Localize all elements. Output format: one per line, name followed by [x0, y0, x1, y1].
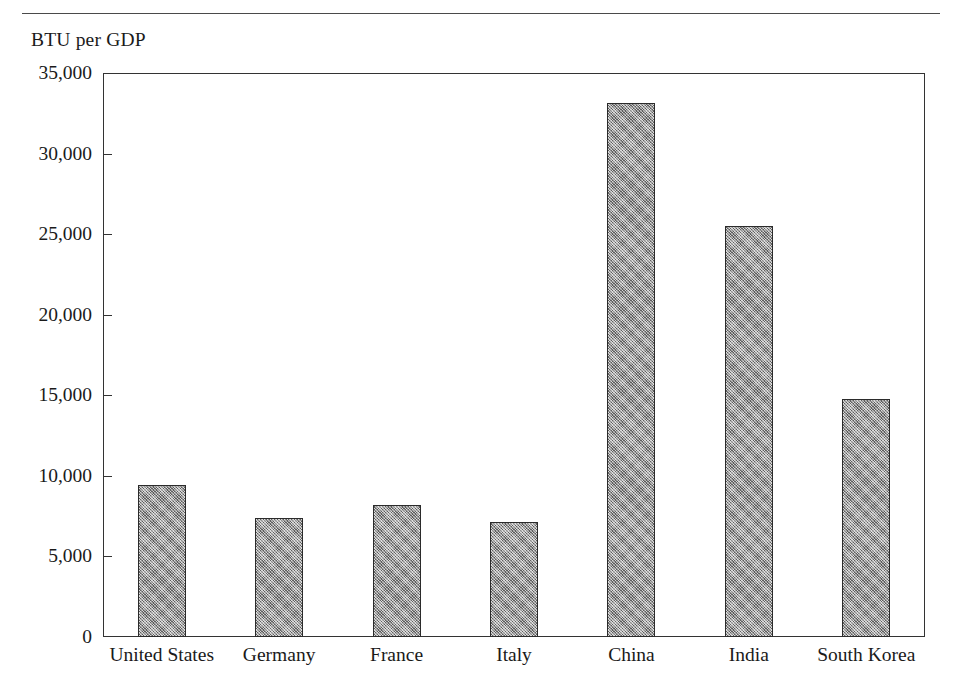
x-axis-tick-label: France: [370, 642, 423, 668]
y-axis-tick-label: 5,000: [11, 547, 103, 567]
chart-figure: BTU per GDP 05,00010,00015,00020,00025,0…: [0, 0, 959, 685]
x-axis-tick-label: India: [729, 642, 769, 668]
y-axis-tick-mark: [103, 556, 112, 557]
y-axis-tick-mark: [103, 154, 112, 155]
y-axis-tick-mark: [103, 395, 112, 396]
bar: [607, 103, 655, 637]
x-axis-tick-label: Germany: [243, 642, 316, 668]
bar: [725, 226, 773, 637]
bar: [490, 522, 538, 637]
y-axis-tick-label: 10,000: [11, 466, 103, 486]
y-axis-tick-labels: 05,00010,00015,00020,00025,00030,00035,0…: [0, 0, 103, 685]
top-rule-divider: [22, 13, 940, 14]
bar: [842, 399, 890, 637]
y-axis-tick-label: 30,000: [11, 144, 103, 164]
bar: [255, 518, 303, 637]
bar: [373, 505, 421, 637]
x-axis-tick-label: China: [608, 642, 655, 668]
y-axis-tick-label: 15,000: [11, 386, 103, 406]
bars-layer: [103, 73, 925, 637]
x-axis-tick-label: South Korea: [817, 642, 915, 668]
y-axis-tick-label: 0: [11, 627, 103, 647]
y-axis-tick-label: 25,000: [11, 224, 103, 244]
bar: [138, 485, 186, 637]
x-axis-tick-label: Italy: [496, 642, 532, 668]
y-axis-tick-label: 35,000: [11, 63, 103, 83]
y-axis-tick-mark: [103, 315, 112, 316]
x-axis-tick-labels: United StatesGermanyFranceItalyChinaIndi…: [103, 642, 925, 682]
y-axis-tick-mark: [103, 234, 112, 235]
x-axis-tick-label: United States: [109, 642, 214, 668]
y-axis-tick-label: 20,000: [11, 305, 103, 325]
y-axis-tick-mark: [103, 476, 112, 477]
